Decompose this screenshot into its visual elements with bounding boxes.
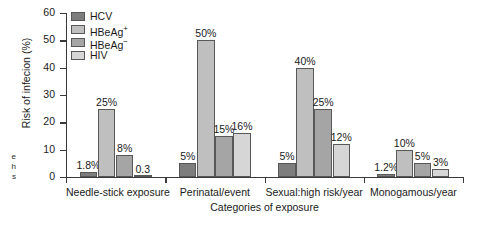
legend-swatch-icon bbox=[71, 51, 85, 60]
bar-value-label: 10% bbox=[387, 137, 421, 149]
x-axis-separator-tick bbox=[165, 177, 166, 183]
caption-fragment-line-1: e bbox=[2, 152, 16, 162]
legend-swatch-icon bbox=[71, 38, 85, 47]
legend-swatch-icon bbox=[71, 12, 85, 21]
y-axis-tick-label: 0 bbox=[33, 170, 55, 182]
bar bbox=[197, 40, 215, 177]
bar-value-label: 0.3 bbox=[126, 163, 160, 175]
bar-value-label: 25% bbox=[90, 96, 124, 108]
y-axis-tick-label: 60 bbox=[33, 6, 55, 18]
caption-fragment: e h s bbox=[2, 152, 16, 182]
bar-value-label: 25% bbox=[306, 96, 340, 108]
y-axis-title: Risk of infecion (%) bbox=[20, 23, 32, 143]
x-axis-category-label: Sexual:high risk/year bbox=[265, 186, 364, 198]
bar-value-label: 3% bbox=[424, 156, 458, 168]
bar bbox=[296, 68, 314, 177]
x-axis-category-label: Perinatal/event bbox=[165, 186, 264, 198]
legend-item-label: HBeAg− bbox=[90, 36, 128, 51]
bar-value-label: 8% bbox=[108, 142, 142, 154]
chart-container: e h s Risk of infecion (%) 0102030405060… bbox=[0, 0, 486, 225]
bar bbox=[134, 175, 152, 177]
x-axis-category-label: Needle-stick exposure bbox=[66, 186, 165, 198]
x-axis-separator-tick bbox=[364, 177, 365, 183]
legend-item-label: HCV bbox=[90, 11, 112, 22]
legend-item[interactable]: HCV bbox=[71, 11, 128, 23]
bar bbox=[215, 136, 233, 177]
x-axis-category-label: Monogamous/year bbox=[364, 186, 463, 198]
x-axis-separator-tick bbox=[265, 177, 266, 183]
bar bbox=[80, 172, 98, 177]
bar-value-label: 40% bbox=[288, 55, 322, 67]
bar bbox=[432, 169, 450, 177]
caption-fragment-line-3: s bbox=[2, 172, 16, 182]
bar-value-label: 16% bbox=[225, 120, 259, 132]
bar bbox=[377, 174, 395, 177]
y-axis-tick-label: 50 bbox=[33, 33, 55, 45]
x-axis-title: Categories of exposure bbox=[66, 201, 463, 213]
y-axis-tick-label: 30 bbox=[33, 88, 55, 100]
bar bbox=[333, 144, 351, 177]
bar bbox=[278, 163, 296, 177]
legend-swatch-icon bbox=[71, 25, 85, 34]
chart-legend: HCVHBeAg+HBeAg−HIV bbox=[71, 11, 128, 63]
bar bbox=[233, 133, 251, 177]
legend-item[interactable]: HBeAg+ bbox=[71, 24, 128, 36]
x-axis-separator-tick bbox=[463, 177, 464, 183]
y-axis-tick-label: 10 bbox=[33, 143, 55, 155]
legend-item[interactable]: HBeAg− bbox=[71, 37, 128, 49]
caption-fragment-line-2: h bbox=[2, 162, 16, 172]
legend-item-label: HIV bbox=[90, 50, 108, 61]
bar-value-label: 12% bbox=[324, 131, 358, 143]
x-axis-separator-tick bbox=[66, 177, 67, 183]
y-axis-tick-label: 40 bbox=[33, 61, 55, 73]
y-axis-tick-label: 20 bbox=[33, 115, 55, 127]
bar bbox=[179, 163, 197, 177]
bar-value-label: 50% bbox=[189, 27, 223, 39]
legend-item[interactable]: HIV bbox=[71, 50, 128, 62]
